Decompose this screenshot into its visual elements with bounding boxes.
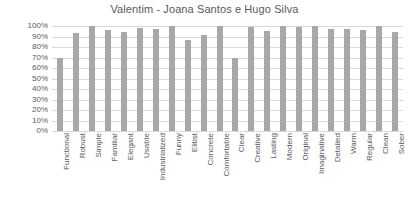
bar[interactable] bbox=[360, 30, 366, 131]
bar-chart: Valentim - Joana Santos e Hugo Silva 100… bbox=[0, 0, 409, 205]
x-axis-slot: Modern bbox=[275, 131, 291, 205]
bar[interactable] bbox=[105, 30, 111, 131]
y-axis-tick-label: 40% bbox=[0, 85, 48, 93]
bar-slot bbox=[275, 26, 291, 131]
x-axis-slot: Sober bbox=[387, 131, 403, 205]
x-axis: FunctionalRobustSimpleFamiliarElegantUsa… bbox=[52, 131, 403, 205]
bar[interactable] bbox=[217, 26, 223, 131]
x-axis-slot: Imaginative bbox=[307, 131, 323, 205]
bar-slot bbox=[132, 26, 148, 131]
x-axis-slot: Warm bbox=[339, 131, 355, 205]
bar-slot bbox=[339, 26, 355, 131]
bar[interactable] bbox=[137, 28, 143, 131]
bar-slot bbox=[243, 26, 259, 131]
bar[interactable] bbox=[264, 31, 270, 131]
y-axis-tick-label: 0% bbox=[0, 127, 48, 135]
y-axis-tick-label: 20% bbox=[0, 106, 48, 114]
x-axis-slot: Usable bbox=[132, 131, 148, 205]
y-axis-tick-label: 100% bbox=[0, 22, 48, 30]
bar[interactable] bbox=[169, 26, 175, 131]
bar[interactable] bbox=[89, 26, 95, 131]
y-axis-tick-label: 10% bbox=[0, 117, 48, 125]
chart-title: Valentim - Joana Santos e Hugo Silva bbox=[0, 3, 409, 15]
plot-area bbox=[52, 26, 403, 131]
y-axis-tick-label: 30% bbox=[0, 96, 48, 104]
bar[interactable] bbox=[232, 58, 238, 132]
bar-slot bbox=[196, 26, 212, 131]
bar-slot bbox=[291, 26, 307, 131]
bar[interactable] bbox=[312, 26, 318, 131]
y-axis-tick-label: 80% bbox=[0, 43, 48, 51]
bar-slot bbox=[52, 26, 68, 131]
y-axis-tick-label: 60% bbox=[0, 64, 48, 72]
x-axis-slot: Elegant bbox=[116, 131, 132, 205]
x-axis-slot: Original bbox=[291, 131, 307, 205]
bar[interactable] bbox=[73, 33, 79, 131]
bar[interactable] bbox=[121, 32, 127, 131]
bar-slot bbox=[227, 26, 243, 131]
y-axis-tick-label: 90% bbox=[0, 33, 48, 41]
bar[interactable] bbox=[153, 29, 159, 131]
bar-slot bbox=[259, 26, 275, 131]
bar-slot bbox=[116, 26, 132, 131]
bar-slot bbox=[164, 26, 180, 131]
bar[interactable] bbox=[280, 26, 286, 131]
bars-layer bbox=[52, 26, 403, 131]
y-axis: 100%90%80%70%60%50%40%30%20%10%0% bbox=[0, 26, 48, 131]
y-axis-tick-label: 50% bbox=[0, 75, 48, 83]
x-axis-tick-label: Sober bbox=[398, 133, 406, 154]
x-axis-slot: Comfortable bbox=[212, 131, 228, 205]
bar-slot bbox=[100, 26, 116, 131]
bar-slot bbox=[307, 26, 323, 131]
x-axis-slot: Concrete bbox=[196, 131, 212, 205]
bar-slot bbox=[212, 26, 228, 131]
x-axis-slot: Lasting bbox=[259, 131, 275, 205]
bar-slot bbox=[323, 26, 339, 131]
bar-slot bbox=[387, 26, 403, 131]
x-axis-slot: Regular bbox=[355, 131, 371, 205]
x-axis-slot: Simple bbox=[84, 131, 100, 205]
y-axis-tick-label: 70% bbox=[0, 54, 48, 62]
bar-slot bbox=[355, 26, 371, 131]
bar[interactable] bbox=[201, 35, 207, 131]
bar[interactable] bbox=[328, 29, 334, 131]
bar[interactable] bbox=[392, 32, 398, 131]
bar[interactable] bbox=[344, 29, 350, 131]
bar-slot bbox=[68, 26, 84, 131]
x-axis-slot: Detailed bbox=[323, 131, 339, 205]
bar[interactable] bbox=[248, 27, 254, 131]
bar-slot bbox=[180, 26, 196, 131]
x-axis-slot: Industrialized bbox=[148, 131, 164, 205]
x-axis-slot: Clean bbox=[371, 131, 387, 205]
bar-slot bbox=[371, 26, 387, 131]
x-axis-slot: Clear bbox=[227, 131, 243, 205]
x-axis-slot: Funny bbox=[164, 131, 180, 205]
bar[interactable] bbox=[185, 40, 191, 131]
bar[interactable] bbox=[376, 26, 382, 131]
x-axis-slot: Functional bbox=[52, 131, 68, 205]
bar[interactable] bbox=[296, 27, 302, 131]
x-axis-slot: Elitist bbox=[180, 131, 196, 205]
x-axis-slot: Creative bbox=[243, 131, 259, 205]
bar[interactable] bbox=[57, 58, 63, 132]
x-axis-slot: Familiar bbox=[100, 131, 116, 205]
x-axis-slot: Robust bbox=[68, 131, 84, 205]
bar-slot bbox=[148, 26, 164, 131]
bar-slot bbox=[84, 26, 100, 131]
